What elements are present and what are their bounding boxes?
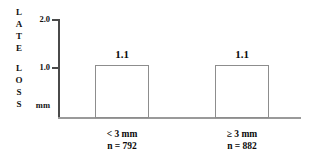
bar-series-2	[215, 65, 269, 118]
y-tick-label-mid-wrap: 1.0	[20, 62, 50, 72]
x-category-name-2: ≥ 3 mm	[227, 129, 258, 139]
y-axis-tick-1	[52, 67, 58, 69]
bar-series-1	[95, 65, 149, 118]
y-axis-line	[58, 19, 60, 119]
bar-value-label-1: 1.1	[95, 48, 149, 60]
y-axis-unit-wrap: mm	[20, 100, 50, 110]
x-category-label-2: ≥ 3 mm n = 882	[202, 128, 282, 152]
y-tick-label-mid: 1.0	[20, 62, 50, 72]
y-tick-label-top-wrap: 2.0	[20, 14, 50, 24]
x-category-count-2: n = 882	[202, 140, 282, 152]
x-category-count-1: n = 792	[82, 140, 162, 152]
y-axis-unit-label: mm	[20, 100, 50, 110]
chart-figure: L A T E L O S S 2.0 1.0 mm 1.1 1.1	[0, 0, 309, 166]
y-axis-tick-2	[52, 19, 58, 21]
y-tick-label-top: 2.0	[20, 14, 50, 24]
x-category-label-1: < 3 mm n = 792	[82, 128, 162, 152]
x-category-name-1: < 3 mm	[107, 129, 138, 139]
plot-area: 2.0 1.0 mm 1.1 1.1 < 3 mm n = 792 ≥ 3 mm…	[0, 0, 309, 166]
bar-value-label-2: 1.1	[215, 48, 269, 60]
